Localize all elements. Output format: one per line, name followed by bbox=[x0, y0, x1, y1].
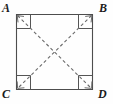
diagonals bbox=[18, 16, 92, 89]
geometry-figure: A B C D bbox=[0, 0, 113, 104]
vertex-label-D: D bbox=[98, 88, 107, 100]
vertex-label-A: A bbox=[2, 2, 10, 14]
figure-canvas bbox=[0, 0, 113, 104]
vertex-label-B: B bbox=[99, 2, 107, 14]
vertex-label-C: C bbox=[2, 88, 10, 100]
